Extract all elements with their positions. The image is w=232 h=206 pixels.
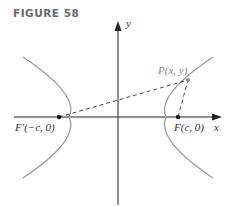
- dashed-line-left-focus: [59, 80, 188, 117]
- x-axis-arrow-icon: [212, 114, 222, 121]
- hyperbola-diagram: y x P(x, y) F′(−c, 0) F(c, 0): [0, 0, 232, 206]
- x-axis-label: x: [213, 121, 219, 133]
- dashed-line-right-focus: [178, 80, 188, 117]
- focus-left-label: F′(−c, 0): [14, 121, 55, 134]
- focus-right-point: [176, 115, 180, 119]
- point-p: [186, 78, 190, 82]
- axes: [14, 21, 222, 205]
- focus-right-label: F(c, 0): [173, 121, 204, 134]
- y-axis-label: y: [125, 17, 131, 29]
- y-axis-arrow-icon: [115, 21, 122, 31]
- point-p-label: P(x, y): [157, 64, 188, 77]
- focus-left-point: [57, 115, 61, 119]
